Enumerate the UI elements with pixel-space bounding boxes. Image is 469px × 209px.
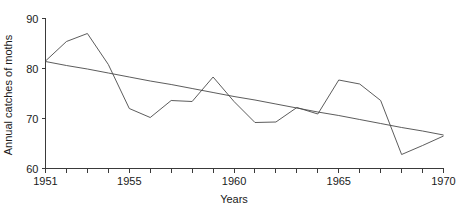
chart-plot-area: 6070809019511955196019651970 Years Annua… (0, 0, 469, 209)
x-tick-label: 1965 (327, 175, 351, 187)
y-tick-label: 70 (26, 113, 38, 125)
chart-tick-marks (42, 19, 444, 173)
chart-data-series (46, 34, 444, 155)
y-axis-title: Annual catches of moths (2, 34, 14, 155)
x-tick-label: 1960 (222, 175, 246, 187)
y-tick-label: 80 (26, 63, 38, 75)
x-tick-label: 1970 (431, 175, 455, 187)
data-series-line (46, 34, 444, 155)
x-axis-title: Years (220, 193, 248, 205)
y-tick-label: 60 (26, 163, 38, 175)
y-tick-label: 90 (26, 13, 38, 25)
trend-line (46, 62, 444, 136)
x-tick-label: 1951 (33, 175, 57, 187)
moth-catch-line-chart: 6070809019511955196019651970 Years Annua… (0, 0, 469, 209)
chart-axes (46, 19, 444, 169)
x-tick-label: 1955 (117, 175, 141, 187)
